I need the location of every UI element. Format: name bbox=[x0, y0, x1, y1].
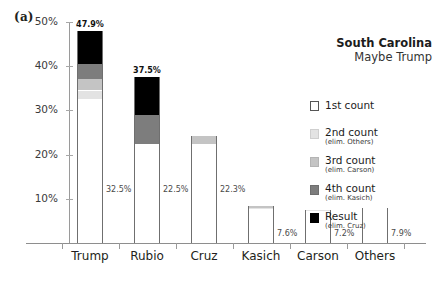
bar-rubio[interactable] bbox=[134, 77, 160, 243]
bar-segment-4th bbox=[135, 115, 159, 144]
bar-kasich[interactable] bbox=[248, 206, 274, 243]
y-tick-mark bbox=[66, 155, 73, 156]
legend-sublabel: (elim. Carson) bbox=[325, 166, 374, 174]
bar-segment-1st bbox=[135, 144, 159, 243]
legend-swatch-icon bbox=[310, 185, 319, 195]
legend-swatch-icon bbox=[310, 129, 319, 139]
title-line-1: South Carolina bbox=[296, 36, 432, 50]
legend-sublabel: (elim. Others) bbox=[325, 138, 373, 146]
legend-item[interactable]: Result(elim. Cruz) bbox=[310, 212, 434, 233]
bar-segment-4th bbox=[78, 64, 102, 79]
title-line-2: Maybe Trump bbox=[296, 50, 432, 65]
bar-top-label: 37.5% bbox=[127, 66, 167, 75]
y-tick-label: 10% bbox=[35, 192, 58, 204]
y-tick-label: 40% bbox=[35, 59, 58, 71]
bar-segment-result bbox=[135, 77, 159, 115]
y-tick-label: 20% bbox=[35, 148, 58, 160]
bar-segment-3rd bbox=[249, 206, 273, 208]
y-tick-mark bbox=[66, 199, 73, 200]
bar-cruz[interactable] bbox=[191, 136, 217, 243]
bar-trump[interactable] bbox=[77, 31, 103, 243]
bar-value-label: 22.5% bbox=[163, 185, 188, 194]
legend-sublabel: (elim. Cruz) bbox=[325, 222, 366, 230]
legend-sublabel: (elim. Kasich) bbox=[325, 194, 373, 202]
bar-segment-3rd bbox=[78, 79, 102, 91]
y-tick-mark bbox=[66, 66, 73, 67]
bar-value-label: 7.6% bbox=[277, 229, 297, 238]
legend-label: 4th count bbox=[325, 182, 375, 194]
y-tick-label: 50% bbox=[35, 15, 58, 27]
bar-segment-2nd bbox=[249, 208, 273, 209]
bar-segment-1st bbox=[78, 99, 102, 243]
panel-label: (a) bbox=[14, 10, 34, 24]
bar-segment-2nd bbox=[78, 91, 102, 100]
legend-label: 1st count bbox=[325, 99, 374, 111]
x-label-others: Others bbox=[335, 249, 415, 263]
y-tick-mark bbox=[66, 110, 73, 111]
legend-label: Result bbox=[325, 210, 357, 222]
legend-item[interactable]: 3rd count(elim. Carson) bbox=[310, 156, 434, 177]
legend-item[interactable]: 1st count bbox=[310, 100, 434, 121]
bar-top-label: 47.9% bbox=[70, 20, 110, 29]
legend-item[interactable]: 4th count(elim. Kasich) bbox=[310, 184, 434, 205]
chart-root: (a) 10%20%30%40%50% 47.9%32.5%37.5%22.5%… bbox=[0, 0, 436, 282]
legend-item[interactable]: 2nd count(elim. Others) bbox=[310, 128, 434, 149]
x-axis-line bbox=[26, 243, 426, 244]
legend: 1st count2nd count(elim. Others)3rd coun… bbox=[310, 100, 434, 240]
y-axis-line bbox=[69, 22, 70, 244]
chart-title: South Carolina Maybe Trump bbox=[296, 36, 432, 65]
bar-segment-1st bbox=[249, 209, 273, 243]
bar-segment-3rd bbox=[192, 136, 216, 145]
y-tick-label: 30% bbox=[35, 103, 58, 115]
legend-label: 3rd count bbox=[325, 154, 375, 166]
bar-segment-1st bbox=[192, 144, 216, 243]
bar-value-label: 32.5% bbox=[106, 185, 131, 194]
legend-swatch-icon bbox=[310, 101, 319, 111]
legend-swatch-icon bbox=[310, 157, 319, 167]
legend-label: 2nd count bbox=[325, 126, 378, 138]
bar-value-label: 22.3% bbox=[220, 185, 245, 194]
legend-swatch-icon bbox=[310, 213, 319, 223]
bar-segment-result bbox=[78, 31, 102, 63]
